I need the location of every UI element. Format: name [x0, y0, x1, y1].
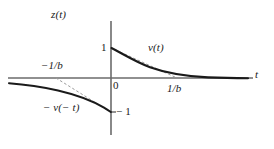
y-axis-label: z(t) [51, 9, 66, 20]
origin-label: 0 [113, 80, 119, 91]
x-axis-label: t [255, 69, 258, 80]
curve-label-v-of-t: v(t) [148, 42, 164, 53]
x-tick-label-negative-inverse-b: −1/b [41, 60, 63, 71]
curve-label-negative-v-of-negative-t: − v(− t) [43, 102, 79, 113]
y-tick-label-one: 1 [101, 42, 107, 53]
plot-canvas [0, 0, 274, 149]
curve-v-of-t [112, 48, 249, 78]
x-tick-label-inverse-b: 1/b [167, 83, 181, 94]
figure-container: z(t) t v(t) − v(− t) 1 0 − 1 −1/b 1/b [0, 0, 274, 149]
y-tick-label-negative-one: − 1 [116, 106, 131, 117]
